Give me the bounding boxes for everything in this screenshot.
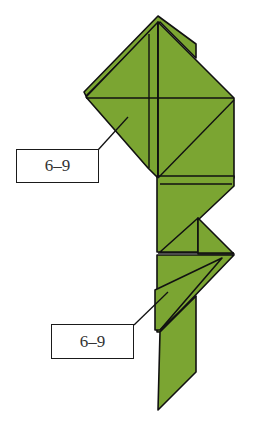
callout-label-upper: 6–9	[16, 149, 99, 183]
origami-model	[0, 0, 254, 448]
callout-text-upper: 6–9	[45, 156, 71, 176]
callout-label-lower: 6–9	[51, 324, 134, 359]
triangle-flap-right	[198, 218, 234, 254]
callout-text-lower: 6–9	[80, 332, 106, 352]
